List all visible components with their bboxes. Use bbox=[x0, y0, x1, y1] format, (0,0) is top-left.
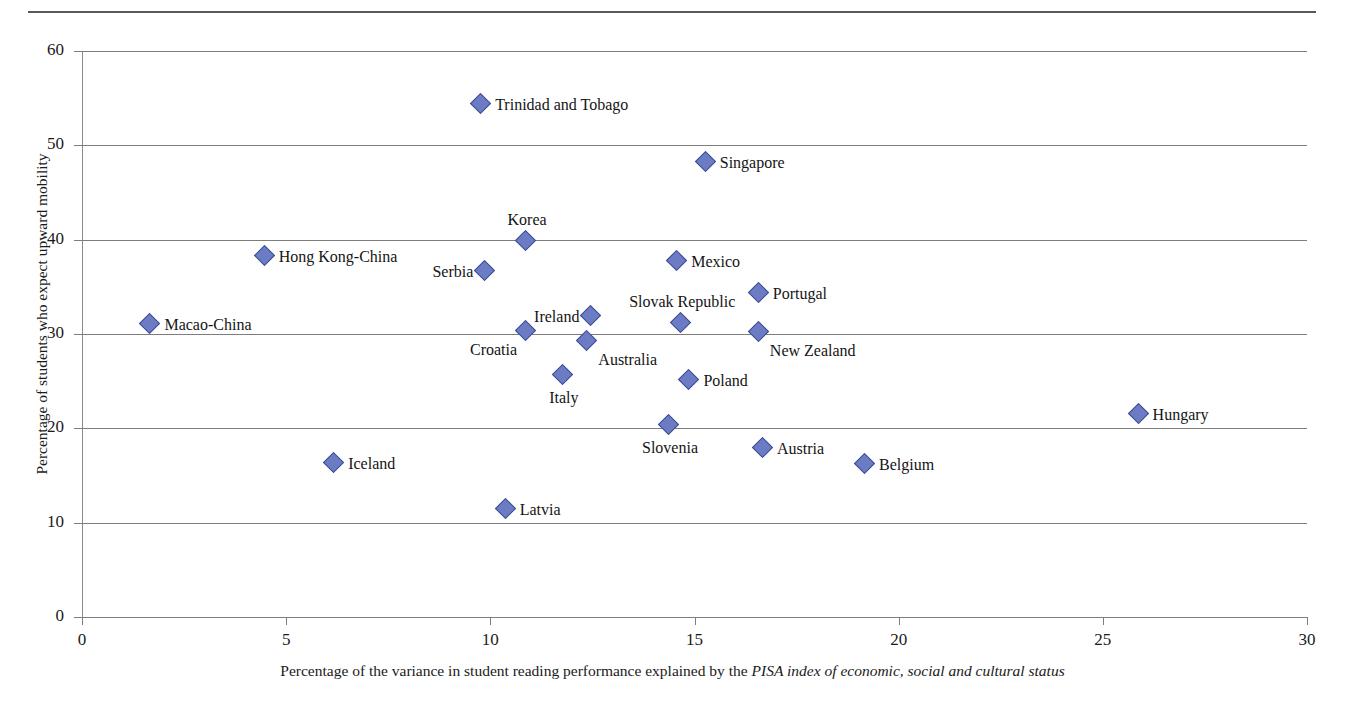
data-point-label: Italy bbox=[549, 390, 578, 406]
header-divider-rule bbox=[28, 11, 1316, 13]
data-point-label: Hong Kong-China bbox=[279, 249, 398, 265]
plot-area: Trinidad and TobagoSingaporeKoreaHong Ko… bbox=[82, 51, 1307, 617]
y-tick-mark-20 bbox=[74, 428, 82, 429]
data-point-label: Hungary bbox=[1153, 407, 1209, 423]
data-point-label: New Zealand bbox=[770, 343, 856, 359]
y-tick-label-50: 50 bbox=[4, 134, 64, 154]
x-tick-mark-15 bbox=[695, 617, 696, 625]
diamond-marker-icon bbox=[470, 93, 491, 114]
data-point-label: Ireland bbox=[534, 309, 579, 325]
diamond-marker-icon bbox=[666, 250, 687, 271]
x-tick-label-25: 25 bbox=[1073, 630, 1133, 650]
data-point-label: Trinidad and Tobago bbox=[495, 97, 628, 113]
data-point-label: Croatia bbox=[470, 342, 517, 358]
gridline-y-30 bbox=[82, 334, 1307, 335]
data-point-label: Austria bbox=[777, 441, 824, 457]
diamond-marker-icon bbox=[658, 414, 679, 435]
y-tick-label-40: 40 bbox=[4, 229, 64, 249]
x-tick-label-10: 10 bbox=[460, 630, 520, 650]
x-tick-label-20: 20 bbox=[869, 630, 929, 650]
x-tick-mark-30 bbox=[1307, 617, 1308, 625]
gridline-y-20 bbox=[82, 428, 1307, 429]
gridline-y-10 bbox=[82, 523, 1307, 524]
data-point-label: Belgium bbox=[879, 457, 934, 473]
gridline-y-40 bbox=[82, 240, 1307, 241]
diamond-marker-icon bbox=[552, 363, 573, 384]
y-tick-mark-0 bbox=[74, 617, 82, 618]
y-tick-mark-10 bbox=[74, 523, 82, 524]
gridline-y-60 bbox=[82, 51, 1307, 52]
diamond-marker-icon bbox=[854, 453, 875, 474]
data-point-label: Poland bbox=[703, 373, 747, 389]
diamond-marker-icon bbox=[678, 369, 699, 390]
y-tick-mark-60 bbox=[74, 51, 82, 52]
y-tick-label-20: 20 bbox=[4, 417, 64, 437]
data-point-label: Slovak Republic bbox=[629, 294, 735, 310]
x-tick-mark-25 bbox=[1103, 617, 1104, 625]
x-tick-label-5: 5 bbox=[256, 630, 316, 650]
x-tick-mark-10 bbox=[490, 617, 491, 625]
diamond-marker-icon bbox=[254, 245, 275, 266]
diamond-marker-icon bbox=[580, 305, 601, 326]
data-point-label: Singapore bbox=[720, 155, 785, 171]
x-tick-mark-5 bbox=[286, 617, 287, 625]
gridline-y-50 bbox=[82, 145, 1307, 146]
figure-scatter-plot: Percentage of students who expect upward… bbox=[0, 0, 1345, 702]
y-tick-mark-50 bbox=[74, 145, 82, 146]
x-tick-label-30: 30 bbox=[1277, 630, 1337, 650]
gridline-y-0 bbox=[82, 617, 1307, 618]
diamond-marker-icon bbox=[515, 320, 536, 341]
diamond-marker-icon bbox=[748, 321, 769, 342]
data-point-label: Portugal bbox=[773, 286, 827, 302]
x-tick-label-0: 0 bbox=[52, 630, 112, 650]
x-tick-mark-20 bbox=[899, 617, 900, 625]
diamond-marker-icon bbox=[495, 498, 516, 519]
data-point-label: Australia bbox=[598, 352, 657, 368]
y-tick-label-10: 10 bbox=[4, 512, 64, 532]
x-tick-mark-0 bbox=[82, 617, 83, 625]
data-point-label: Mexico bbox=[691, 254, 740, 270]
diamond-marker-icon bbox=[474, 260, 495, 281]
y-tick-label-0: 0 bbox=[4, 606, 64, 626]
x-axis-title-italic: PISA index of economic, social and cultu… bbox=[752, 662, 1065, 679]
x-axis-title-plain: Percentage of the variance in student re… bbox=[280, 662, 751, 679]
y-tick-mark-40 bbox=[74, 240, 82, 241]
diamond-marker-icon bbox=[748, 282, 769, 303]
diamond-marker-icon bbox=[752, 437, 773, 458]
y-tick-label-60: 60 bbox=[4, 40, 64, 60]
y-tick-mark-30 bbox=[74, 334, 82, 335]
diamond-marker-icon bbox=[695, 151, 716, 172]
data-point-label: Serbia bbox=[432, 264, 473, 280]
diamond-marker-icon bbox=[515, 229, 536, 250]
diamond-marker-icon bbox=[670, 312, 691, 333]
data-point-label: Iceland bbox=[348, 456, 395, 472]
x-axis-title: Percentage of the variance in student re… bbox=[0, 662, 1345, 680]
data-point-label: Latvia bbox=[520, 502, 561, 518]
diamond-marker-icon bbox=[1127, 403, 1148, 424]
data-point-label: Slovenia bbox=[642, 440, 698, 456]
y-tick-label-30: 30 bbox=[4, 323, 64, 343]
data-point-label: Macao-China bbox=[164, 317, 251, 333]
data-point-label: Korea bbox=[508, 212, 547, 228]
diamond-marker-icon bbox=[323, 452, 344, 473]
x-tick-label-15: 15 bbox=[665, 630, 725, 650]
diamond-marker-icon bbox=[139, 312, 160, 333]
